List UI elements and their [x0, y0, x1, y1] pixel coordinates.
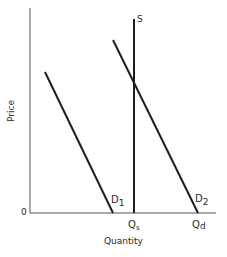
d2-label-sub: 2: [203, 197, 209, 207]
qs-tick-label: Qs: [128, 219, 140, 232]
qd-sub: d: [200, 221, 206, 231]
supply-demand-chart: S D1 D2 0 Qs Qd Quantity Price: [0, 0, 227, 257]
d1-label: D1: [111, 194, 124, 208]
y-axis-title: Price: [6, 100, 16, 122]
origin-label: 0: [21, 207, 27, 217]
d2-label: D2: [195, 193, 208, 207]
d1-label-sub: 1: [119, 198, 125, 208]
qs-main: Q: [128, 219, 136, 230]
qd-main: Q: [192, 219, 200, 230]
qs-sub: s: [136, 224, 140, 232]
supply-label: S: [137, 14, 143, 24]
demand-curve-d1: [45, 72, 113, 213]
qd-tick-label: Qd: [192, 219, 206, 231]
demand-curve-d2: [113, 40, 198, 213]
x-axis-title: Quantity: [104, 236, 144, 246]
